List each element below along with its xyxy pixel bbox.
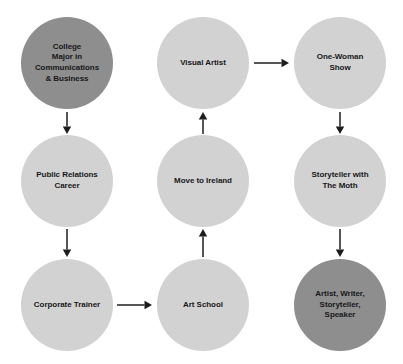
flowchart-diagram: College Major in Communications & Busine… [0, 0, 403, 364]
flow-node-public-relations-career[interactable]: Public Relations Career [21, 135, 113, 227]
flow-arrow [336, 229, 344, 257]
flow-node-storyteller-with-the-moth[interactable]: Storyteller with The Moth [294, 135, 386, 227]
arrow-head-icon [336, 127, 344, 135]
arrow-head-icon [63, 250, 71, 258]
arrow-head-icon [282, 59, 290, 67]
flow-node-art-school[interactable]: Art School [157, 259, 249, 351]
flow-node-visual-artist[interactable]: Visual Artist [157, 17, 249, 109]
flow-node-label: Move to Ireland [169, 176, 237, 187]
arrow-head-icon [199, 112, 207, 120]
arrow-head-icon [199, 229, 207, 237]
flow-arrow [63, 112, 71, 134]
flow-node-label: Corporate Trainer [29, 300, 105, 311]
flow-node-label: Artist, Writer, Storyteller, Speaker [310, 289, 369, 321]
flow-arrow [199, 229, 207, 257]
flow-arrow [63, 229, 71, 257]
arrow-head-icon [145, 301, 153, 309]
arrow-head-icon [336, 250, 344, 258]
flow-node-label: Visual Artist [175, 58, 231, 69]
flow-node-label: College Major in Communications & Busine… [30, 42, 104, 84]
flow-node-label: Art School [178, 300, 228, 311]
flow-node-corporate-trainer[interactable]: Corporate Trainer [21, 259, 113, 351]
flow-node-label: Storyteller with The Moth [307, 170, 374, 191]
flow-node-move-to-ireland[interactable]: Move to Ireland [157, 135, 249, 227]
flow-arrow [254, 59, 289, 67]
flow-arrow [117, 301, 152, 309]
flow-node-college-major[interactable]: College Major in Communications & Busine… [21, 17, 113, 109]
flow-arrow [336, 112, 344, 134]
flow-node-label: One-Woman Show [312, 52, 369, 73]
flow-arrow [199, 112, 207, 134]
arrow-head-icon [63, 127, 71, 135]
flow-node-label: Public Relations Career [31, 170, 102, 191]
flow-node-artist-writer-storyteller-speaker[interactable]: Artist, Writer, Storyteller, Speaker [294, 259, 386, 351]
flow-node-one-woman-show[interactable]: One-Woman Show [294, 17, 386, 109]
